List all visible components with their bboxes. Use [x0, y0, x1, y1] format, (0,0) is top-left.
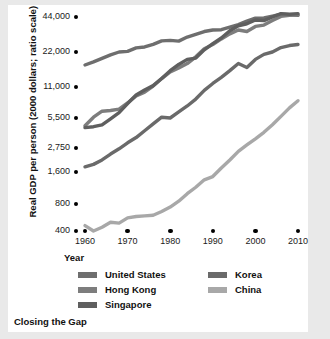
y-tick-dot: [74, 229, 78, 233]
y-tick-label: 5,500: [26, 112, 70, 122]
series-line: [85, 45, 298, 167]
legend-label: Hong Kong: [105, 284, 156, 295]
y-tick-label: 800: [26, 198, 70, 208]
legend-label: Korea: [235, 269, 262, 280]
y-tick-dot: [74, 85, 78, 89]
chart-figure: Real GDP per person (2000 dollars; ratio…: [0, 0, 330, 339]
legend-swatch: [78, 287, 97, 293]
legend-label: Singapore: [105, 299, 151, 310]
y-tick-dot: [74, 15, 78, 19]
y-tick-dot: [74, 170, 78, 174]
figure-caption: Closing the Gap: [14, 316, 87, 327]
x-tick-label: 1980: [153, 236, 187, 246]
x-tick-label: 1970: [111, 236, 145, 246]
y-tick-dot: [74, 50, 78, 54]
legend-column-left: United StatesHong KongSingapore: [78, 268, 166, 313]
series-line: [85, 101, 298, 231]
x-tick-label: 1960: [68, 236, 102, 246]
legend-swatch: [208, 287, 227, 293]
series-line: [85, 14, 298, 128]
legend-item[interactable]: Singapore: [78, 298, 166, 311]
y-tick-label: 2,750: [26, 142, 70, 152]
legend-column-right: KoreaChina: [208, 268, 262, 298]
x-tick-label: 2000: [238, 236, 272, 246]
series-line: [85, 15, 298, 126]
x-tick-dot: [125, 229, 130, 234]
y-tick-label: 11,000: [26, 81, 70, 91]
legend-item[interactable]: Hong Kong: [78, 283, 166, 296]
y-tick-label: 1,600: [26, 166, 70, 176]
legend-item[interactable]: China: [208, 283, 262, 296]
x-tick-dot: [253, 229, 258, 234]
y-tick-dot: [74, 202, 78, 206]
y-tick-label: 22,000: [26, 46, 70, 56]
y-tick-dot: [74, 116, 78, 120]
y-tick-dot: [74, 146, 78, 150]
legend-item[interactable]: Korea: [208, 268, 262, 281]
y-axis-title: Real GDP per person (2000 dollars; ratio…: [27, 30, 38, 218]
legend-swatch: [78, 302, 97, 308]
series-line: [85, 14, 298, 65]
x-tick-dot: [296, 229, 301, 234]
x-tick-dot: [211, 229, 216, 234]
legend-swatch: [208, 272, 227, 278]
x-tick-label: 2010: [281, 236, 315, 246]
x-tick-dot: [83, 229, 88, 234]
legend-label: China: [235, 284, 261, 295]
y-tick-label: 44,000: [26, 11, 70, 21]
legend-swatch: [78, 272, 97, 278]
legend-label: United States: [105, 269, 166, 280]
legend-item[interactable]: United States: [78, 268, 166, 281]
x-tick-dot: [168, 229, 173, 234]
x-axis-title: Year: [64, 252, 84, 263]
y-tick-label: 400: [26, 225, 70, 235]
x-tick-label: 1990: [196, 236, 230, 246]
